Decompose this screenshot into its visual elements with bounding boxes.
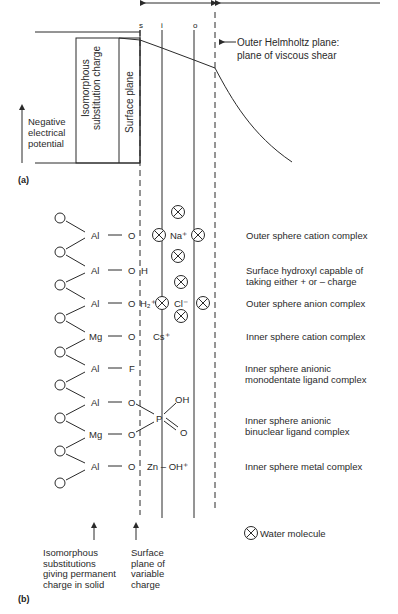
ohp-annotation: Outer Helmholtz plane: plane of viscous … <box>237 36 339 62</box>
zinc-complex: Zn – OH⁺ <box>147 461 188 472</box>
ligand-label: F <box>129 363 135 374</box>
ligand-label: O <box>128 397 135 408</box>
phosphate-o: O <box>180 427 187 438</box>
surface-plane-box-label: Surface plane <box>124 71 135 133</box>
ligand-label: O <box>128 331 135 342</box>
hydroxyl-h: H <box>141 265 148 276</box>
plane-marker-i: i <box>161 21 163 30</box>
chloride-ion: Cl⁻ <box>174 298 188 309</box>
phosphate-oh: OH <box>175 394 189 405</box>
metal-label: Al <box>91 298 99 309</box>
water-molecule-icon <box>153 229 166 242</box>
metal-label: Mg <box>89 331 102 342</box>
plane-marker-s: s <box>139 21 143 30</box>
description-surface-hydroxyl: Surface hydroxyl capable oftaking either… <box>246 265 363 287</box>
description-inner-cation: Inner sphere cation complex <box>246 331 365 342</box>
legend-water-label: Water molecule <box>260 528 326 539</box>
description-monodentate: Inner sphere anionicmonodentate ligand c… <box>245 363 366 385</box>
sodium-ion: Na⁺ <box>170 230 187 241</box>
water-molecule-icon <box>175 310 188 323</box>
cesium-ion: Cs⁺ <box>153 331 170 342</box>
water-molecules <box>153 206 258 540</box>
metal-label: Al <box>91 461 99 472</box>
metal-label: Al <box>91 265 99 276</box>
phosphorus-atom: P <box>156 413 162 424</box>
isomorphous-box-label: Isomorphous substitution charge <box>80 46 102 130</box>
description-outer-anion: Outer sphere anion complex <box>246 298 365 309</box>
water-molecule-icon <box>245 527 258 540</box>
water-molecule-icon <box>175 276 188 289</box>
ligand-label: O <box>128 230 135 241</box>
ligand-label: O <box>128 298 135 309</box>
plane-lines <box>140 12 236 518</box>
isomorphous-substitution-label: Isomorphous substitutions giving permane… <box>43 548 116 590</box>
water-molecule-icon <box>172 250 185 263</box>
solid-lattice <box>55 213 178 488</box>
water-molecule-icon <box>156 297 169 310</box>
metal-label: Al <box>91 230 99 241</box>
description-metal-complex: Inner sphere metal complex <box>245 461 362 472</box>
surface-variable-charge-label: Surface plane of variable charge <box>131 548 165 590</box>
metal-label: Mg <box>89 429 102 440</box>
ligand-label: O <box>128 461 135 472</box>
panel-b-label: (b) <box>18 594 30 604</box>
plane-marker-o: o <box>193 21 197 30</box>
panel-a-label: (a) <box>18 175 29 185</box>
h2-plus: H₂⁺ <box>140 298 156 309</box>
axis-label: Negative electrical potential <box>28 116 66 149</box>
ligand-label: O <box>128 265 135 276</box>
metal-label: Al <box>91 363 99 374</box>
water-molecule-icon <box>172 206 185 219</box>
ligand-label: O <box>128 429 135 440</box>
description-outer-cation: Outer sphere cation complex <box>246 230 367 241</box>
metal-label: Al <box>91 397 99 408</box>
description-binuclear: Inner sphere anionicbinuclear ligand com… <box>245 415 350 437</box>
water-molecule-icon <box>197 297 210 310</box>
water-molecule-icon <box>192 229 205 242</box>
